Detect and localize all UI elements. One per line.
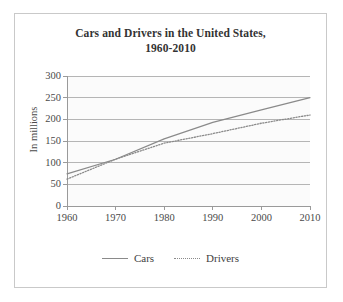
x-tick-label: 1990 <box>193 213 233 223</box>
x-tick-label: 1980 <box>144 213 184 223</box>
y-tick-label: 0 <box>27 201 61 211</box>
y-tick-label: 300 <box>27 71 61 81</box>
legend-label-cars: Cars <box>134 252 154 264</box>
legend-line-solid-icon <box>102 258 128 259</box>
legend-label-drivers: Drivers <box>206 252 239 264</box>
legend-item-drivers: Drivers <box>174 252 239 264</box>
legend-line-dotted-icon <box>174 258 200 259</box>
y-tick-label: 50 <box>27 179 61 189</box>
legend-item-cars: Cars <box>102 252 154 264</box>
y-tick-label: 200 <box>27 114 61 124</box>
x-tick-label: 1960 <box>47 213 87 223</box>
x-tick-label: 2010 <box>290 213 330 223</box>
y-tick-label: 100 <box>27 158 61 168</box>
y-tick-label: 150 <box>27 136 61 146</box>
x-tick-label: 1970 <box>96 213 136 223</box>
x-tick-label: 2000 <box>241 213 281 223</box>
y-tick-label: 250 <box>27 93 61 103</box>
chart-svg <box>15 14 328 289</box>
plot-area: In millions 050100150200250300 196019701… <box>15 14 328 289</box>
chart-legend: Cars Drivers <box>15 252 326 264</box>
chart-card: Cars and Drivers in the United States, 1… <box>14 13 327 288</box>
